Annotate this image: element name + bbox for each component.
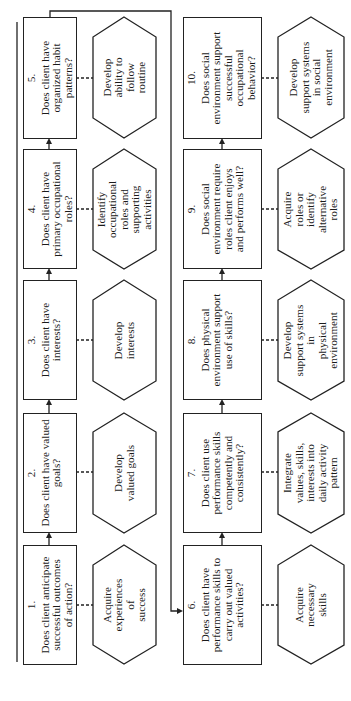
action-text-8: Develop support systems in physical envi… bbox=[281, 300, 341, 381]
action-text-6: Acquire necessary skills bbox=[281, 565, 341, 645]
action-text-2: Develop valued goals bbox=[96, 432, 153, 514]
question-text-5: 5. Does client have organized habit patt… bbox=[26, 20, 74, 136]
action-text-7: Integrate values, skills, interests into… bbox=[281, 432, 341, 514]
action-text-5: Develop ability to follow routine bbox=[96, 37, 153, 118]
question-text-3: 3. Does client have interests? bbox=[26, 283, 74, 397]
question-text-10: 10. Does social environment support succ… bbox=[186, 20, 259, 136]
question-text-1: 1. Does client anticipate successful out… bbox=[26, 548, 74, 662]
flowchart-diagram: 1. Does client anticipate successful out… bbox=[0, 0, 351, 701]
question-text-9: 9. Does social environment require roles… bbox=[186, 152, 259, 266]
action-text-1: Acquire experiences of success bbox=[96, 565, 153, 645]
action-text-9: Acquire roles or identify alternative ro… bbox=[281, 169, 341, 250]
action-text-4: Identify occupational roles and supporti… bbox=[96, 169, 153, 250]
question-text-4: 4. Does client have primary occupational… bbox=[26, 152, 74, 266]
question-text-7: 7. Does client use performance skills co… bbox=[186, 416, 259, 530]
action-text-3: Develop interests bbox=[96, 300, 153, 381]
action-text-10: Develop support systems in social enviro… bbox=[281, 37, 341, 118]
question-text-8: 8. Does physical environment support use… bbox=[186, 283, 259, 397]
question-text-2: 2. Does client have valued goals? bbox=[26, 416, 74, 530]
question-text-6: 6. Does client have performance skills t… bbox=[186, 548, 259, 662]
